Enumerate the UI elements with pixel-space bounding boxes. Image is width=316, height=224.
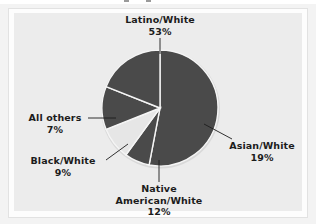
chart-plot-area: Latino/White 53% Asian/White 19% Native … (0, 0, 316, 224)
callout-value: 53% (110, 26, 210, 38)
callout-all-others: All others 7% (24, 112, 86, 135)
callout-value: 7% (24, 124, 86, 136)
callout-label-line1: Native (141, 183, 176, 194)
callout-label: Latino/White (125, 14, 195, 25)
callout-value: 9% (22, 167, 104, 179)
callout-asian-white: Asian/White 19% (222, 140, 302, 163)
callout-label: All others (29, 112, 82, 123)
pie-slices (102, 50, 218, 166)
callout-latino-white: Latino/White 53% (110, 14, 210, 37)
callout-label-line2: American/White (104, 195, 214, 207)
callout-native-american-white: Native American/White 12% (104, 183, 214, 218)
callout-black-white: Black/White 9% (22, 155, 104, 178)
callout-value: 12% (104, 206, 214, 218)
callout-value: 19% (222, 152, 302, 164)
callout-label: Asian/White (229, 140, 295, 151)
callout-label: Black/White (31, 155, 96, 166)
chart-figure: Latino/White 53% Asian/White 19% Native … (0, 0, 316, 224)
